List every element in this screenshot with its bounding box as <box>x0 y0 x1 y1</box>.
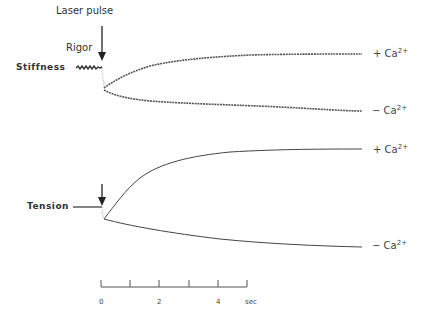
time-scale-bar <box>101 280 247 287</box>
x-tick-0: 0 <box>99 298 103 306</box>
tension-plus-ca-label: + Ca2+ <box>373 143 408 155</box>
stiffness-plus-ca-trace <box>104 54 362 88</box>
stiffness-minus-ca-label: − Ca2+ <box>372 104 407 116</box>
figure-canvas <box>0 0 427 322</box>
x-unit-label: sec <box>245 298 257 306</box>
tension-plus-ca-trace <box>104 149 362 219</box>
stiffness-baseline-trace <box>76 66 102 69</box>
tension-minus-ca-trace <box>104 219 362 247</box>
rigor-label: Rigor <box>66 42 92 53</box>
tension-pulse-arrow-icon <box>98 184 106 206</box>
x-tick-4: 4 <box>216 298 220 306</box>
x-tick-2: 2 <box>157 298 161 306</box>
tension-minus-ca-label: − Ca2+ <box>372 239 407 251</box>
stiffness-plus-ca-label: + Ca2+ <box>373 47 408 59</box>
laser-pulse-arrow-icon <box>98 26 106 61</box>
laser-pulse-label: Laser pulse <box>56 5 113 16</box>
stiffness-label: Stiffness <box>16 62 65 72</box>
stiffness-minus-ca-trace <box>104 90 362 111</box>
tension-label: Tension <box>27 201 69 211</box>
